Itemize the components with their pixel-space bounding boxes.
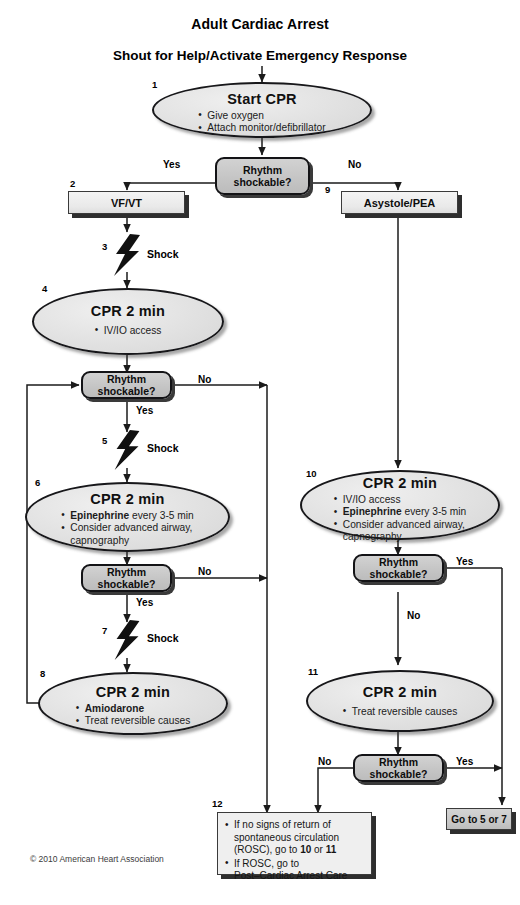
- bullet: Treat reversible causes: [343, 706, 458, 718]
- bullet: Consider advanced airway,capnography: [334, 519, 466, 544]
- step-number-7: 7: [102, 625, 107, 636]
- edge-label-d5-yes: Yes: [456, 756, 473, 767]
- bullet: If ROSC, go toPost–Cardiac Arrest Care: [225, 858, 364, 883]
- node-cpr-2min-10-title: CPR 2 min: [302, 476, 498, 492]
- acls-adult-cardiac-arrest-algorithm: Adult Cardiac Arrest Shout for Help/Acti…: [0, 0, 520, 905]
- edge-label-d5-no: No: [318, 756, 331, 767]
- edge-d5-no: [318, 768, 353, 813]
- copyright-notice: © 2010 American Heart Association: [30, 854, 164, 864]
- step-number-8: 8: [40, 668, 45, 679]
- step-number-6: 6: [35, 477, 40, 488]
- node-cpr-2min-8[interactable]: CPR 2 min Amiodarone Treat reversible ca…: [38, 672, 228, 735]
- node-rosc-note-bullets: If no signs of return ofspontaneous circ…: [225, 819, 364, 883]
- edge-label-d1-no: No: [348, 159, 361, 170]
- decision-rhythm-shockable-2[interactable]: Rhythmshockable?: [81, 371, 172, 399]
- bullet: If no signs of return ofspontaneous circ…: [225, 819, 364, 857]
- step-number-3: 3: [102, 241, 107, 252]
- step-number-2: 2: [70, 178, 75, 189]
- edge-label-shock-7: Shock: [147, 632, 179, 644]
- node-asystole-pea[interactable]: Asystole/PEA: [341, 191, 458, 214]
- node-start-cpr[interactable]: Start CPR Give oxygen Attach monitor/def…: [152, 82, 372, 138]
- edge-label-d3-yes: Yes: [136, 597, 153, 608]
- edge-label-d2-no: No: [198, 374, 211, 385]
- shock-bolt-icon-5: [113, 430, 143, 470]
- edge-label-d1-yes: Yes: [163, 159, 180, 170]
- decision-5-label: Rhythmshockable?: [370, 756, 428, 781]
- edge-label-d3-no: No: [198, 566, 211, 577]
- edge-label-d2-yes: Yes: [136, 405, 153, 416]
- bullet: Consider advanced airway,capnography: [61, 522, 193, 547]
- bullet: Epinephrine every 3-5 min: [61, 510, 193, 522]
- step-number-12: 12: [212, 798, 223, 809]
- node-cpr-2min-6[interactable]: CPR 2 min Epinephrine every 3-5 min Cons…: [25, 482, 230, 552]
- node-cpr-2min-10-bullets: IV/IO access Epinephrine every 3-5 min C…: [334, 494, 466, 544]
- decision-4-label: Rhythmshockable?: [370, 556, 428, 581]
- node-start-cpr-title: Start CPR: [154, 92, 370, 108]
- edge-label-shock-5: Shock: [147, 442, 179, 454]
- node-rosc-note[interactable]: If no signs of return ofspontaneous circ…: [217, 812, 372, 875]
- shock-bolt-icon-7: [113, 620, 143, 660]
- page-subtitle: Shout for Help/Activate Emergency Respon…: [0, 48, 520, 63]
- step-number-11: 11: [308, 666, 318, 677]
- bullet: Treat reversible causes: [76, 715, 191, 727]
- bullet: Give oxygen: [198, 110, 325, 122]
- edge-label-shock-3: Shock: [147, 248, 179, 260]
- decision-1-label: Rhythmshockable?: [234, 164, 292, 189]
- node-cpr-2min-4-bullets: IV/IO access: [95, 325, 162, 337]
- decision-rhythm-shockable-3[interactable]: Rhythmshockable?: [81, 564, 172, 592]
- node-cpr-2min-11-title: CPR 2 min: [308, 685, 492, 701]
- bullet: Epinephrine every 3-5 min: [334, 506, 466, 518]
- edge-d1-yes: [127, 183, 215, 190]
- bullet: Attach monitor/defibrillator: [198, 122, 325, 134]
- step-number-9: 9: [325, 184, 330, 195]
- shock-bolt-icon-3: [113, 234, 143, 276]
- node-cpr-2min-6-title: CPR 2 min: [27, 492, 228, 508]
- bullet: Amiodarone: [76, 703, 191, 715]
- page-title: Adult Cardiac Arrest: [0, 16, 520, 32]
- node-cpr-2min-10[interactable]: CPR 2 min IV/IO access Epinephrine every…: [300, 470, 500, 540]
- step-number-1: 1: [152, 79, 157, 90]
- edge-d1-no: [310, 183, 398, 190]
- node-vf-vt-label: VF/VT: [111, 197, 142, 209]
- step-number-4: 4: [42, 283, 47, 294]
- node-cpr-2min-8-bullets: Amiodarone Treat reversible causes: [76, 703, 191, 728]
- node-asystole-pea-label: Asystole/PEA: [364, 197, 436, 209]
- bullet: IV/IO access: [334, 494, 466, 506]
- decision-rhythm-shockable-1[interactable]: Rhythmshockable?: [215, 157, 310, 195]
- node-cpr-2min-6-bullets: Epinephrine every 3-5 min Consider advan…: [61, 510, 193, 547]
- node-cpr-2min-4-title: CPR 2 min: [34, 304, 222, 320]
- node-cpr-2min-11[interactable]: CPR 2 min Treat reversible causes: [306, 670, 494, 732]
- node-cpr-2min-11-bullets: Treat reversible causes: [343, 706, 458, 718]
- decision-3-label: Rhythmshockable?: [98, 566, 156, 591]
- step-number-5: 5: [102, 435, 107, 446]
- edge-label-d4-no: No: [407, 610, 420, 621]
- decision-rhythm-shockable-5[interactable]: Rhythmshockable?: [353, 754, 444, 782]
- node-go-to-5-or-7[interactable]: Go to 5 or 7: [446, 808, 512, 830]
- node-go-to-5-or-7-label: Go to 5 or 7: [451, 814, 507, 825]
- bullet: IV/IO access: [95, 325, 162, 337]
- node-vf-vt[interactable]: VF/VT: [68, 191, 185, 214]
- node-cpr-2min-8-title: CPR 2 min: [40, 685, 226, 701]
- edge-label-d4-yes: Yes: [456, 556, 473, 567]
- decision-rhythm-shockable-4[interactable]: Rhythmshockable?: [353, 554, 444, 582]
- decision-2-label: Rhythmshockable?: [98, 373, 156, 398]
- node-start-cpr-bullets: Give oxygen Attach monitor/defibrillator: [198, 110, 325, 135]
- node-cpr-2min-4[interactable]: CPR 2 min IV/IO access: [32, 288, 224, 355]
